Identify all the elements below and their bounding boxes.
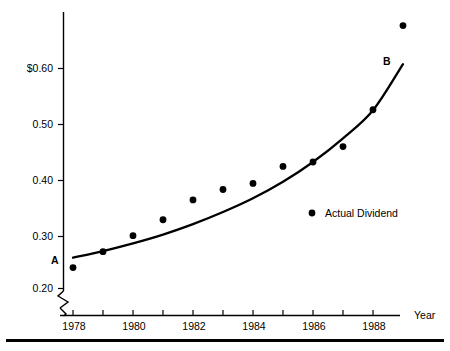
data-point-1989 <box>400 22 407 29</box>
data-point-1981 <box>160 216 167 223</box>
chart-canvas: $0.60 0.50 0.40 0.30 0.20 1978 1980 1982… <box>0 0 450 351</box>
annotation-label-a: A <box>51 254 59 266</box>
x-tick-label-0: 1978 <box>62 320 86 332</box>
data-point-1987 <box>340 143 347 150</box>
data-point-1984 <box>250 180 257 187</box>
bottom-rule-divider <box>6 339 444 342</box>
y-tick-label-3: 0.30 <box>33 230 54 242</box>
legend-label-actual-dividend: Actual Dividend <box>325 207 398 219</box>
y-tick-label-4: 0.20 <box>33 282 54 294</box>
data-point-1986 <box>310 159 317 166</box>
data-point-1988 <box>370 106 377 113</box>
y-tick-label-1: 0.50 <box>33 118 54 130</box>
data-point-1978 <box>70 264 77 271</box>
trend-curve-a-to-b <box>73 64 403 258</box>
data-point-1979 <box>100 248 107 255</box>
data-point-1983 <box>220 186 227 193</box>
annotation-label-b: B <box>383 55 391 67</box>
x-tick-label-2: 1982 <box>182 320 206 332</box>
data-point-1982 <box>190 197 197 204</box>
y-tick-label-2: 0.40 <box>33 174 54 186</box>
data-point-1980 <box>130 232 137 239</box>
data-point-group <box>70 22 407 271</box>
dividend-trend-chart: $0.60 0.50 0.40 0.30 0.20 1978 1980 1982… <box>0 0 450 351</box>
x-tick-label-3: 1984 <box>242 320 266 332</box>
legend-marker-icon <box>309 210 316 217</box>
x-tick-label-5: 1988 <box>362 320 386 332</box>
x-axis-ticks <box>73 310 373 316</box>
x-tick-label-1: 1980 <box>122 320 146 332</box>
y-tick-label-0: $0.60 <box>27 62 53 74</box>
x-axis-title: Year <box>414 309 436 321</box>
y-axis-ticks <box>58 69 64 289</box>
x-tick-label-4: 1986 <box>302 320 326 332</box>
data-point-1985 <box>280 163 287 170</box>
y-axis-break-icon <box>58 291 68 308</box>
chart-legend: Actual Dividend <box>309 207 399 219</box>
